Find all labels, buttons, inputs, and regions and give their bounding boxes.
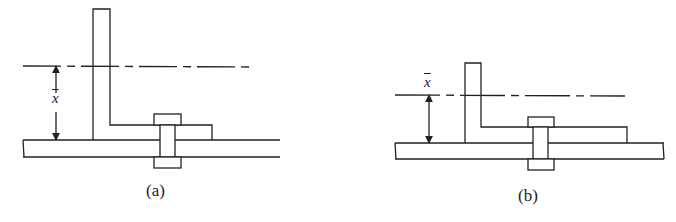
nut-b [528, 159, 554, 170]
nut-a [154, 157, 181, 168]
angle-a [93, 9, 212, 140]
neutral-axis-b [395, 95, 625, 96]
figure-a [23, 9, 280, 168]
figure-b [395, 63, 664, 170]
x-bar-label-a: x [52, 90, 59, 107]
plate-b [395, 143, 664, 159]
diagram-canvas [0, 0, 676, 222]
bolt-head-a [154, 114, 181, 125]
bolt-shank-b [533, 127, 548, 159]
x-bar-label-b: x [424, 74, 431, 91]
bolt-shank-a [160, 125, 175, 157]
bolt-head-b [528, 117, 554, 127]
caption-a: (a) [146, 181, 165, 201]
plate-a [23, 140, 280, 157]
caption-b: (b) [518, 186, 538, 206]
neutral-axis-a [23, 66, 250, 67]
